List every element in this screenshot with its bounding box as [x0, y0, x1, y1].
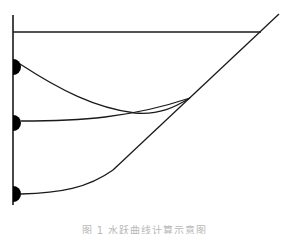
middle-gate-semicircle-icon	[13, 115, 21, 131]
diagonal-slope-line	[113, 14, 279, 170]
diagram-canvas	[0, 0, 289, 234]
lower-curve	[21, 170, 113, 194]
curve-group	[20, 64, 190, 194]
figure-caption: 图 1 水跃曲线计算示意图	[0, 224, 289, 234]
lower-gate-semicircle-icon	[13, 186, 21, 202]
upper-gate-semicircle-icon	[13, 59, 21, 75]
gate-group	[13, 59, 21, 202]
